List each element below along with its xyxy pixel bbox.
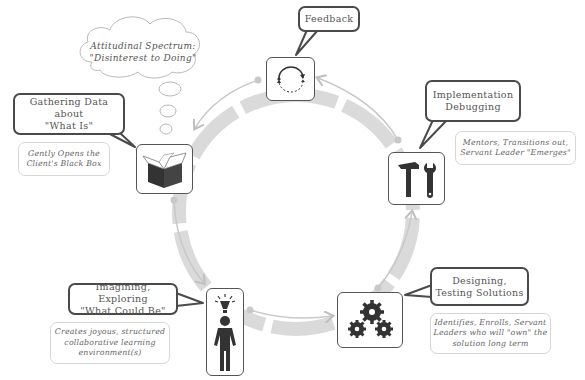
- cloud-line-1: Attitudinal Spectrum:: [88, 40, 198, 52]
- stage-title-designing: Designing, Testing Solutions: [430, 267, 529, 306]
- stage-note-gathering: Gently Opens the Client's Black Box: [18, 142, 110, 176]
- cloud-line-2: "Disinterest to Doing": [88, 52, 198, 64]
- thought-cloud-text: Attitudinal Spectrum: "Disinterest to Do…: [88, 40, 198, 64]
- cycle-diagram: Attitudinal Spectrum: "Disinterest to Do…: [0, 0, 585, 380]
- open-box-icon: [142, 149, 188, 189]
- gears-icon: [344, 298, 396, 342]
- cycle-arrows-icon: [274, 64, 308, 94]
- stage-note-designing: Identifies, Enrolls, Servant Leaders who…: [430, 313, 551, 354]
- stage-icon-box-gathering: [136, 144, 193, 194]
- person-lightbulb-icon: [210, 293, 240, 373]
- stage-icon-box-imagining: [206, 288, 244, 376]
- stage-title-feedback: Feedback: [298, 6, 360, 32]
- stage-icon-box-feedback: [266, 57, 315, 101]
- stage-icon-box-implementation: [388, 152, 445, 205]
- stage-note-implementation: Mentors, Transitions out, Servant Leader…: [455, 131, 576, 165]
- stage-title-imagining: Imagining, Exploring "What Could Be": [68, 283, 178, 315]
- stage-icon-box-designing: [337, 292, 403, 348]
- stage-note-imagining: Creates joyous, structured collaborative…: [50, 322, 170, 364]
- hammer-wrench-icon: [395, 159, 439, 199]
- stage-title-implementation: Implementation Debugging: [425, 80, 521, 122]
- stage-title-gathering: Gathering Data about "What Is": [13, 93, 125, 135]
